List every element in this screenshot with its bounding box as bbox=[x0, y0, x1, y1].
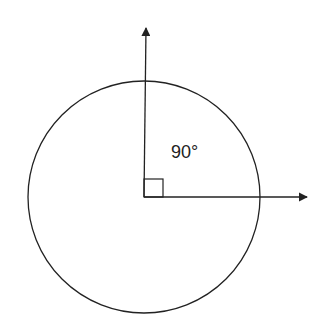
angle-label: 90° bbox=[171, 142, 198, 162]
right-angle-diagram: 90° bbox=[0, 0, 330, 333]
right-angle-marker bbox=[144, 179, 163, 197]
vertical-ray bbox=[144, 28, 146, 197]
